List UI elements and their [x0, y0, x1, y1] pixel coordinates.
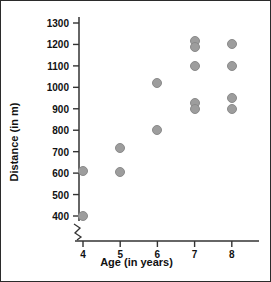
data-point [190, 61, 200, 71]
data-point [227, 104, 237, 114]
data-point [227, 93, 237, 103]
x-tick-label: 4 [68, 249, 98, 260]
scatter-plot-figure: Distance (in m) Age (in years) 400500600… [0, 0, 271, 282]
y-tick-label: 1100 [29, 60, 69, 71]
x-tick-label: 7 [180, 249, 210, 260]
y-tick-label: 1300 [29, 18, 69, 29]
y-tick-label: 900 [29, 103, 69, 114]
data-point [78, 211, 88, 221]
data-point [115, 167, 125, 177]
data-point [152, 78, 162, 88]
y-tick-label: 500 [29, 189, 69, 200]
data-point [227, 39, 237, 49]
data-point [190, 104, 200, 114]
data-point [152, 125, 162, 135]
y-tick-label: 1000 [29, 82, 69, 93]
data-point [78, 166, 88, 176]
data-point [115, 143, 125, 153]
data-point [227, 61, 237, 71]
y-tick-label: 600 [29, 168, 69, 179]
y-tick-label: 400 [29, 211, 69, 222]
x-tick-label: 6 [142, 249, 172, 260]
y-tick-label: 1200 [29, 39, 69, 50]
y-tick-label: 700 [29, 146, 69, 157]
plot-area: 4005006007008009001000110012001300 45678 [1, 1, 271, 282]
x-tick-label: 5 [105, 249, 135, 260]
x-tick-label: 8 [217, 249, 247, 260]
data-point [190, 42, 200, 52]
y-tick-label: 800 [29, 125, 69, 136]
